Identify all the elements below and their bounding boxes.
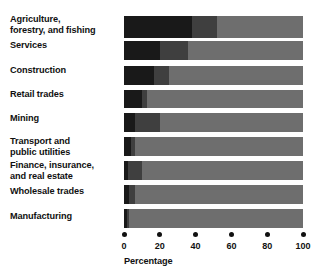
category-label-agriculture: Agriculture, forestry, and fishing [10, 14, 122, 35]
axis-tick-dot-60 [229, 232, 234, 237]
axis-tick-dot-0 [122, 232, 127, 237]
axis-tick-label-20: 20 [155, 241, 165, 251]
category-label-transport: Transport and public utilities [10, 136, 122, 157]
category-label-transport-line2: public utilities [10, 147, 122, 158]
bar-row [124, 185, 303, 204]
stacked-bar-chart: Agriculture, forestry, and fishing Servi… [0, 0, 322, 277]
bar-segment-3 [135, 137, 303, 156]
axis-tick-dot-40 [193, 232, 198, 237]
x-axis-title: Percentage [124, 256, 173, 266]
bar-row [124, 137, 303, 156]
axis-tick-dot-100 [301, 232, 306, 237]
category-label-manufacturing: Manufacturing [10, 211, 122, 222]
axis-tick-dot-20 [157, 232, 162, 237]
bar-row [124, 41, 303, 60]
bar-segment-2 [192, 16, 217, 38]
stacked-bar [124, 113, 303, 132]
bar-segment-2 [160, 41, 189, 60]
bar-segment-1 [124, 16, 192, 38]
category-label-agriculture-line2: forestry, and fishing [10, 25, 122, 36]
stacked-bar [124, 209, 303, 228]
category-label-finance: Finance, insurance, and real estate [10, 160, 122, 181]
category-label-agriculture-line1: Agriculture, [10, 14, 122, 25]
category-label-services: Services [10, 40, 122, 51]
stacked-bar [124, 41, 303, 60]
bar-segment-2 [154, 66, 168, 85]
bar-segment-3 [135, 185, 303, 204]
stacked-bar [124, 185, 303, 204]
bar-segment-3 [169, 66, 303, 85]
bar-segment-3 [142, 161, 303, 180]
bar-segment-3 [160, 113, 303, 132]
x-axis: 0 20 40 60 80 100 [124, 232, 303, 272]
axis-tick-label-100: 100 [295, 241, 310, 251]
axis-tick-label-80: 80 [262, 241, 272, 251]
stacked-bar [124, 66, 303, 85]
bar-segment-2 [128, 161, 142, 180]
category-label-construction: Construction [10, 65, 122, 76]
axis-tick-dot-80 [265, 232, 270, 237]
bar-row [124, 209, 303, 228]
stacked-bar [124, 90, 303, 108]
bar-segment-3 [129, 209, 303, 228]
stacked-bar [124, 16, 303, 38]
category-label-finance-line1: Finance, insurance, [10, 160, 122, 171]
bar-segment-1 [124, 137, 131, 156]
axis-tick-label-60: 60 [226, 241, 236, 251]
stacked-bar [124, 161, 303, 180]
category-label-retail-trades: Retail trades [10, 89, 122, 100]
bar-segment-1 [124, 41, 160, 60]
bar-row [124, 113, 303, 132]
bar-segment-1 [124, 113, 135, 132]
bar-row [124, 66, 303, 85]
category-label-wholesale-trades: Wholesale trades [10, 186, 122, 197]
bar-segment-1 [124, 90, 142, 108]
axis-tick-label-40: 40 [191, 241, 201, 251]
category-label-transport-line1: Transport and [10, 136, 122, 147]
bar-segment-1 [124, 66, 154, 85]
category-label-finance-line2: and real estate [10, 171, 122, 182]
bar-segment-3 [147, 90, 303, 108]
category-label-mining: Mining [10, 113, 122, 124]
bar-segment-2 [135, 113, 160, 132]
bar-row [124, 16, 303, 38]
bar-segment-3 [188, 41, 303, 60]
axis-tick-label-0: 0 [121, 241, 126, 251]
stacked-bar [124, 137, 303, 156]
bar-segment-3 [217, 16, 303, 38]
bar-row [124, 161, 303, 180]
bar-row [124, 90, 303, 108]
